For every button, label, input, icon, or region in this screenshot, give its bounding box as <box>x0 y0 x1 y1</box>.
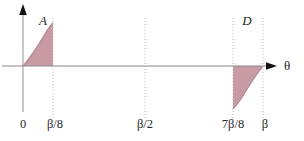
tick-label-beta-over-2: β/2 <box>137 118 153 131</box>
x-axis-arrowhead-icon <box>266 62 277 70</box>
y-axis-arrowhead-icon <box>19 4 27 15</box>
region-label-a: A <box>39 14 47 27</box>
tick-label-0: 0 <box>20 118 26 131</box>
tick-label-beta-over-8: β/8 <box>47 118 63 131</box>
tick-label-beta: β <box>262 118 268 131</box>
tick-label-7beta-over-8: 7β/8 <box>222 118 244 131</box>
region-label-d: D <box>242 14 251 27</box>
figure-root: A D θ 0 β/8 β/2 7β/8 β <box>0 0 304 141</box>
x-axis-label: θ <box>284 59 290 72</box>
